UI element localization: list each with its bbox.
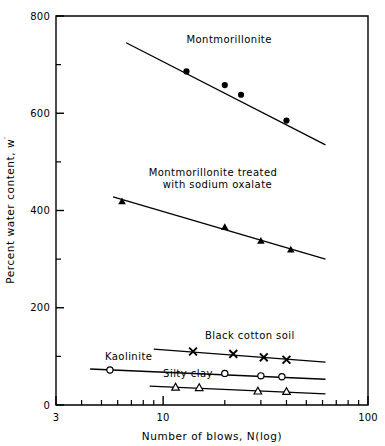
x-tick-label: 3 [53, 412, 60, 423]
series-fit-line [154, 349, 326, 362]
y-axis-title-text: Percent water content, w [4, 139, 16, 284]
series-label-line: Montmorillonite treated [149, 167, 278, 178]
data-point-open-circle [222, 370, 228, 376]
series-label: Montmorillonite treatedwith sodium oxala… [149, 167, 278, 190]
series-label: Kaolinite [105, 351, 152, 362]
y-tick-label: 600 [30, 108, 50, 119]
series-data-markers [107, 68, 295, 394]
series-label: Black cotton soil [205, 330, 295, 341]
data-point-filled-circle [238, 92, 244, 98]
series-fit-line [113, 197, 325, 259]
data-point-filled-triangle [221, 223, 229, 230]
data-point-open-circle [279, 374, 285, 380]
data-point-open-triangle [195, 384, 203, 391]
y-axis-title-prime: ′ [3, 136, 13, 139]
series-inline-labels: MontmorilloniteMontmorillonite treatedwi… [105, 34, 295, 379]
series-label-line: with sodium oxalate [163, 179, 273, 190]
y-axis-title: Percent water content, w′ [3, 136, 16, 283]
y-tick-label: 400 [30, 205, 50, 216]
y-axis-tick-labels: 0200400600800 [30, 11, 50, 411]
x-tick-label: 10 [157, 412, 170, 423]
data-point-open-triangle [283, 388, 291, 395]
data-point-filled-circle [183, 68, 189, 74]
data-point-filled-circle [222, 82, 228, 88]
y-tick-label: 0 [43, 400, 50, 411]
x-axis-title: Number of blows, N(log) [142, 430, 282, 442]
x-axis-minor-ticks [82, 400, 359, 405]
series-fit-line [126, 43, 325, 145]
x-tick-label: 100 [358, 412, 378, 423]
y-tick-label: 200 [30, 302, 50, 313]
y-tick-label: 800 [30, 11, 50, 22]
data-point-open-circle [258, 373, 264, 379]
x-axis-major-ticks [56, 396, 368, 405]
y-axis-major-ticks [56, 16, 64, 405]
series-label: Montmorillonite [186, 34, 271, 45]
axis-frame [56, 16, 368, 405]
data-point-filled-circle [283, 117, 289, 123]
chart-canvas: 0200400600800 310100 MontmorilloniteMont… [0, 0, 385, 446]
x-axis-tick-labels: 310100 [53, 412, 378, 423]
data-point-open-circle [107, 367, 113, 373]
chart-figure: 0200400600800 310100 MontmorilloniteMont… [0, 0, 385, 446]
series-label: Silty clay [163, 368, 213, 379]
